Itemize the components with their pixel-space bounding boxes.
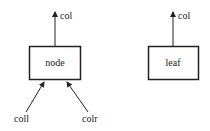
node-group: node col coll colr	[14, 10, 98, 124]
leaf-label: leaf	[166, 57, 182, 68]
node-label: node	[45, 57, 65, 68]
leaf-out-label: col	[178, 10, 190, 21]
colr-arrow	[67, 82, 88, 112]
colr-label: colr	[82, 113, 98, 124]
node-out-label: col	[60, 10, 72, 21]
coll-label: coll	[14, 113, 29, 124]
coll-arrow	[26, 82, 44, 112]
diagram: node col coll colr leaf col	[0, 0, 210, 131]
leaf-group: leaf col	[149, 10, 199, 80]
